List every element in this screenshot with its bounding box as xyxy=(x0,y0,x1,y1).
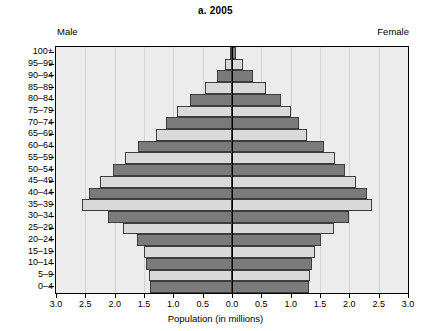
bar-male xyxy=(100,176,232,188)
y-axis-label: 55–59 xyxy=(1,153,53,162)
bar-female xyxy=(232,106,291,118)
bar-female xyxy=(232,281,309,293)
bar-male xyxy=(138,141,232,153)
bar-female xyxy=(232,270,310,282)
bar-female xyxy=(232,152,335,164)
x-axis-labels: 3.02.52.01.51.00.50.00.51.01.52.02.53.0 xyxy=(55,299,409,313)
bar-female xyxy=(232,94,281,106)
bar-female xyxy=(232,164,345,176)
y-axis-label: 70–74 xyxy=(1,118,53,127)
y-axis-label: 25–29 xyxy=(1,223,53,232)
bar-female xyxy=(232,246,315,258)
x-axis-tick-label: 1.5 xyxy=(138,299,151,309)
bar-male xyxy=(225,59,232,71)
bar-male xyxy=(82,199,232,211)
y-axis-label: 80–84 xyxy=(1,94,53,103)
y-axis-label: 10–14 xyxy=(1,258,53,267)
bar-female xyxy=(232,234,321,246)
bar-male xyxy=(123,223,232,235)
x-axis-tick-label: 0.0 xyxy=(226,299,239,309)
x-axis-title: Population (in millions) xyxy=(0,313,431,324)
y-axis-label: 45–49 xyxy=(1,176,53,185)
bar-female xyxy=(232,82,266,94)
x-axis-tick xyxy=(115,294,116,298)
x-axis-tick xyxy=(349,294,350,298)
x-axis-tick-label: 2.0 xyxy=(108,299,121,309)
x-axis-tick xyxy=(261,294,262,298)
x-axis-tick xyxy=(85,294,86,298)
y-axis-label: 75–79 xyxy=(1,106,53,115)
x-axis-tick xyxy=(173,294,174,298)
x-axis-tick xyxy=(203,294,204,298)
x-axis-tick xyxy=(408,294,409,298)
bar-male xyxy=(149,270,232,282)
x-axis-tick-label: 3.0 xyxy=(50,299,63,309)
x-axis-tick-label: 1.5 xyxy=(314,299,327,309)
bar-male xyxy=(156,129,232,141)
y-axis-label: 85–89 xyxy=(1,83,53,92)
bar-male xyxy=(190,94,232,106)
bar-male xyxy=(125,152,232,164)
bar-female xyxy=(232,223,334,235)
x-axis-tick-label: 1.0 xyxy=(167,299,180,309)
bar-male xyxy=(146,258,232,270)
y-axis-label: 30–34 xyxy=(1,211,53,220)
x-axis-tick xyxy=(379,294,380,298)
plot-area xyxy=(55,46,409,294)
bar-male xyxy=(113,164,232,176)
x-axis-tick xyxy=(232,294,233,298)
x-axis-tick-label: 3.0 xyxy=(402,299,415,309)
y-axis-label: 60–64 xyxy=(1,141,53,150)
y-axis-label: 90–94 xyxy=(1,71,53,80)
bar-male xyxy=(89,188,232,200)
x-axis-tick-label: 1.0 xyxy=(284,299,297,309)
x-axis-tick xyxy=(320,294,321,298)
male-axis-label: Male xyxy=(57,26,78,37)
x-axis-tick-label: 2.5 xyxy=(372,299,385,309)
y-axis-label: 100+ xyxy=(1,47,53,56)
bar-female xyxy=(232,211,349,223)
x-axis-tick xyxy=(291,294,292,298)
x-axis-tick-label: 0.5 xyxy=(196,299,209,309)
x-axis-tick xyxy=(56,294,57,298)
bar-male xyxy=(150,281,232,293)
x-axis-tick-label: 2.0 xyxy=(343,299,356,309)
bar-female xyxy=(232,70,253,82)
y-axis-label: 0–4 xyxy=(1,282,53,291)
chart-title: a. 2005 xyxy=(0,5,431,16)
bar-male xyxy=(137,234,232,246)
y-axis-label: 20–24 xyxy=(1,235,53,244)
bar-male xyxy=(217,70,232,82)
bar-male xyxy=(166,117,232,129)
y-axis-labels: 0–45–910–1415–1920–2425–2930–3435–3940–4… xyxy=(0,46,53,294)
bar-female xyxy=(232,117,299,129)
bar-female xyxy=(232,59,243,71)
y-axis-label: 35–39 xyxy=(1,200,53,209)
bar-female xyxy=(232,258,312,270)
bar-female xyxy=(232,188,367,200)
y-axis-label: 40–44 xyxy=(1,188,53,197)
population-pyramid-chart: a. 2005 Male Female 0–45–910–1415–1920–2… xyxy=(0,0,431,331)
y-axis-label: 15–19 xyxy=(1,247,53,256)
bar-female xyxy=(232,141,324,153)
bar-female xyxy=(232,129,307,141)
y-axis-label: 5–9 xyxy=(1,270,53,279)
female-axis-label: Female xyxy=(377,26,409,37)
bar-male xyxy=(144,246,232,258)
bar-female xyxy=(232,199,372,211)
bar-male xyxy=(177,106,232,118)
x-axis-tick xyxy=(144,294,145,298)
bar-male xyxy=(108,211,232,223)
center-axis-line xyxy=(232,47,233,293)
y-axis-label: 50–54 xyxy=(1,165,53,174)
x-axis-tick-label: 2.5 xyxy=(79,299,92,309)
y-axis-label: 65–69 xyxy=(1,129,53,138)
bar-male xyxy=(205,82,232,94)
y-axis-label: 95–99 xyxy=(1,59,53,68)
bar-female xyxy=(232,176,356,188)
x-axis-tick-label: 0.5 xyxy=(255,299,268,309)
